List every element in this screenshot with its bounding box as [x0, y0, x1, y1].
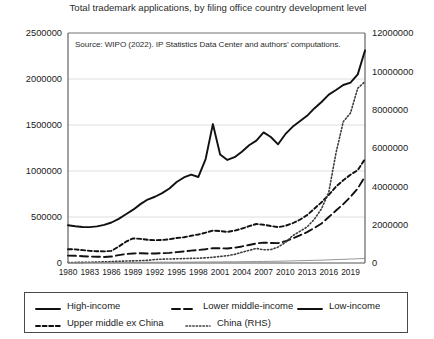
legend-row-top: High-incomeLower middle-incomeLow-income: [25, 296, 407, 314]
y-axis-tick-right: 0: [372, 258, 377, 268]
legend-swatch-dotted-icon: [185, 317, 211, 327]
legend-item[interactable]: Upper middle ex China: [35, 313, 164, 331]
x-axis-tick: 2013: [298, 267, 317, 277]
y-axis-tick-right: 8000000: [372, 105, 408, 115]
chart-figure: Total trademark applications, by filing …: [0, 0, 434, 339]
x-axis-tick: 1986: [102, 267, 121, 277]
legend-label: Lower middle-income: [203, 300, 293, 311]
x-axis-tick: 1995: [167, 267, 186, 277]
legend-swatch-solid-icon: [297, 300, 323, 310]
legend-swatch-solid-icon: [35, 300, 61, 310]
y-axis-tick-right: 6000000: [372, 143, 408, 153]
legend-swatch-dashed-long-icon: [171, 300, 197, 310]
legend-label: High-income: [67, 300, 120, 311]
legend-row-bottom: Upper middle ex ChinaChina (RHS): [25, 313, 407, 331]
legend-item[interactable]: High-income: [35, 296, 120, 314]
x-axis-tick: 2007: [254, 267, 273, 277]
y-axis-tick-right: 2000000: [372, 220, 408, 230]
y-axis-tick-right: 12000000: [372, 28, 413, 38]
x-axis-tick: 2001: [211, 267, 230, 277]
legend-label: China (RHS): [217, 317, 271, 328]
plot-area: 0500000100000015000002000000250000002000…: [0, 0, 434, 285]
series-line: [68, 159, 365, 251]
x-axis-tick: 2004: [233, 267, 252, 277]
x-axis-tick: 1989: [124, 267, 143, 277]
y-axis-tick-left: 1500000: [26, 120, 62, 130]
legend-label: Upper middle ex China: [67, 317, 164, 328]
y-axis-tick-right: 4000000: [372, 182, 408, 192]
x-axis-tick: 1983: [80, 267, 99, 277]
y-axis-tick-right: 10000000: [372, 67, 413, 77]
series-line: [68, 50, 365, 227]
legend-item[interactable]: Low-income: [297, 296, 380, 314]
y-axis-tick-left: 2000000: [26, 74, 62, 84]
source-note: Source: WIPO (2022). IP Statistics Data …: [75, 40, 340, 49]
series-line: [68, 82, 365, 263]
x-axis-tick: 2016: [319, 267, 338, 277]
legend-label: Low-income: [329, 300, 380, 311]
x-axis-tick: 2010: [276, 267, 295, 277]
x-axis-tick: 1998: [189, 267, 208, 277]
y-axis-tick-left: 500000: [31, 212, 62, 222]
x-axis-tick: 2019: [341, 267, 360, 277]
x-axis-tick: 1980: [59, 267, 78, 277]
chart-legend: High-incomeLower middle-incomeLow-income…: [24, 292, 408, 333]
y-axis-tick-left: 2500000: [26, 28, 62, 38]
legend-item[interactable]: Lower middle-income: [171, 296, 293, 314]
y-axis-tick-left: 1000000: [26, 166, 62, 176]
legend-item[interactable]: China (RHS): [185, 313, 271, 331]
legend-swatch-dashed-short-icon: [35, 317, 61, 327]
x-axis-tick: 1992: [146, 267, 165, 277]
